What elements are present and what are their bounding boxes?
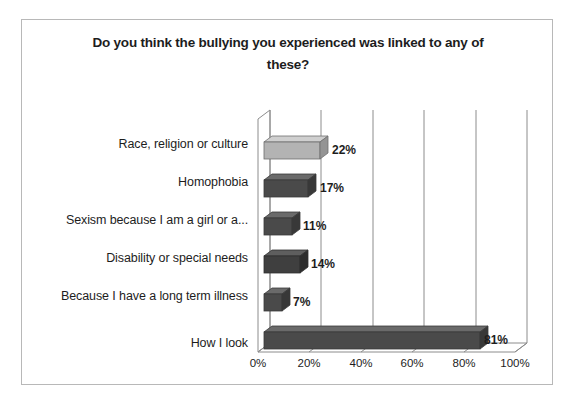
x-tick-label-20: 20%: [287, 357, 331, 369]
bar-how-i-look[interactable]: [264, 326, 488, 349]
x-tick-label-100: 100%: [493, 357, 537, 369]
bar-disability-special-needs[interactable]: [264, 250, 308, 273]
x-tick-label-80: 80%: [442, 357, 486, 369]
bar-homophobia[interactable]: [264, 174, 316, 197]
bar-front-face: [264, 332, 480, 349]
plot-area: Race, religion or culture Homophobia Sex…: [22, 105, 554, 375]
x-tick-label-0: 0%: [236, 357, 280, 369]
bar-value-sexism: 11%: [303, 220, 326, 232]
bar-value-race-religion-culture: 22%: [332, 144, 356, 156]
bar-value-long-term-illness: 7%: [293, 296, 310, 308]
x-tick-label-40: 40%: [339, 357, 383, 369]
chart-title-line-1: Do you think the bullying you experience…: [62, 32, 514, 54]
bar-front-face: [264, 180, 308, 197]
bar-race-religion-culture[interactable]: [264, 136, 328, 159]
x-tick-label-60: 60%: [390, 357, 434, 369]
bar-front-face: [264, 294, 282, 311]
bar-top-face: [264, 136, 328, 142]
chart-graphic: [22, 105, 554, 375]
bar-value-how-i-look: 81%: [484, 334, 508, 346]
chart-title-line-2: these?: [62, 54, 514, 76]
bar-sexism[interactable]: [264, 212, 300, 235]
bar-front-face: [264, 218, 292, 235]
chart-title: Do you think the bullying you experience…: [62, 32, 514, 76]
bar-top-face: [264, 326, 488, 332]
bar-front-face: [264, 142, 320, 159]
bar-value-homophobia: 17%: [320, 182, 344, 194]
chart-frame: Do you think the bullying you experience…: [21, 19, 553, 385]
bar-long-term-illness[interactable]: [264, 288, 290, 311]
bar-value-disability-special-needs: 14%: [311, 258, 335, 270]
bar-front-face: [264, 256, 300, 273]
bar-top-face: [264, 174, 316, 180]
